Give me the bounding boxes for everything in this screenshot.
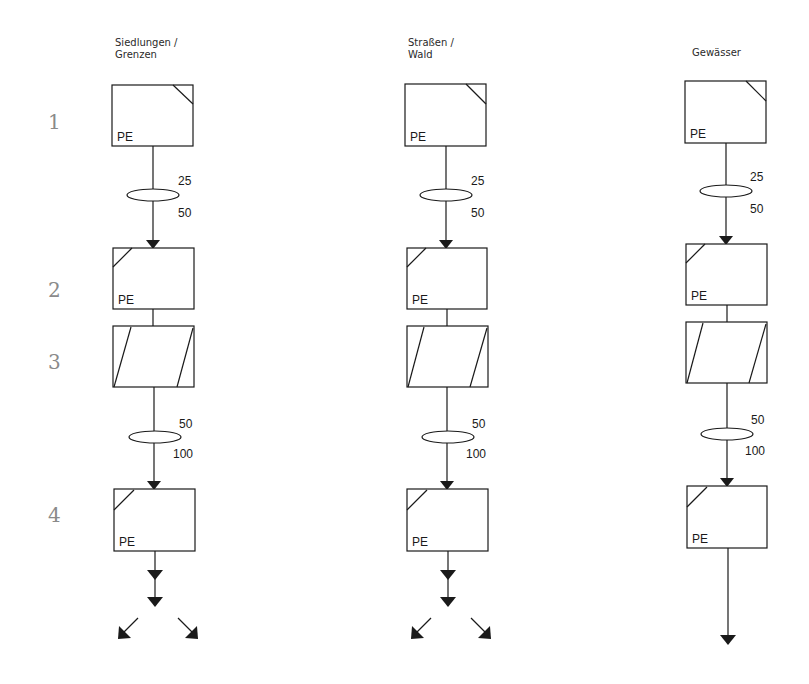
process-box-4: PE [407,489,488,551]
filter-upper-value: 25 [471,174,485,188]
filter-upper-value: 50 [751,413,765,427]
column-siedlungen-grenzen: Siedlungen / Grenzen PE 25 50 PE 50 100 [112,37,198,639]
arrow-down-icon [147,597,163,607]
filter-lower-value: 50 [471,206,485,220]
filter-upper-value: 50 [179,417,193,431]
filter-ellipse-icon [700,185,752,197]
row-numbers: 1 2 3 4 [48,110,61,527]
process-box-1: PE [112,85,193,146]
box-label: PE [117,130,133,144]
arrow-down-icon [720,635,736,645]
process-box-2: PE [113,248,194,309]
arrow-down-left-icon [118,618,138,639]
process-box-2: PE [686,244,767,305]
arrow-down-right-icon [178,618,198,639]
box-label: PE [412,293,428,307]
filter-lower-value: 100 [466,447,486,461]
row-number-1: 1 [48,110,61,134]
arrow-down-icon [147,570,163,580]
box-label: PE [410,130,426,144]
row-number-3: 3 [48,350,61,374]
process-box-4: PE [114,489,195,551]
process-box-1: PE [405,84,486,146]
filter-upper-value: 50 [472,417,486,431]
arrow-down-left-icon [411,618,431,639]
row-number-2: 2 [48,278,61,302]
box-label: PE [692,532,708,546]
box-label: PE [119,535,135,549]
arrow-down-right-icon [471,618,491,639]
filter-lower-value: 50 [178,206,192,220]
filter-ellipse-icon [701,428,753,440]
column-title-line-1: Gewässer [692,47,742,58]
process-box-3 [113,326,194,387]
column-title-line-1: Siedlungen / [115,37,178,48]
arrow-down-icon [440,597,456,607]
process-box-3 [686,322,767,383]
filter-upper-value: 25 [178,174,192,188]
filter-lower-value: 50 [750,202,764,216]
column-title-line-2: Wald [408,49,433,60]
process-box-3 [407,326,488,387]
filter-ellipse-icon [422,431,474,443]
box-label: PE [691,289,707,303]
row-number-4: 4 [48,503,61,527]
box-label: PE [118,293,134,307]
filter-ellipse-icon [420,189,472,201]
arrow-down-icon [440,570,456,580]
process-box-4: PE [687,486,767,548]
column-title-line-2: Grenzen [115,49,157,60]
filter-lower-value: 100 [745,444,765,458]
column-strassen-wald: Straßen / Wald PE 25 50 PE 50 100 [405,37,491,639]
box-label: PE [412,535,428,549]
box-label: PE [690,127,706,141]
process-box-1: PE [685,81,766,143]
column-title-line-1: Straßen / [408,37,454,48]
filter-ellipse-icon [127,189,179,201]
filter-upper-value: 25 [750,170,764,184]
filter-ellipse-icon [129,431,181,443]
column-gewaesser: Gewässer PE 25 50 PE 50 100 P [685,47,767,645]
filter-lower-value: 100 [173,447,193,461]
process-box-2: PE [407,248,487,309]
diagram-canvas: 1 2 3 4 Siedlungen / Grenzen PE 25 50 PE [0,0,809,684]
